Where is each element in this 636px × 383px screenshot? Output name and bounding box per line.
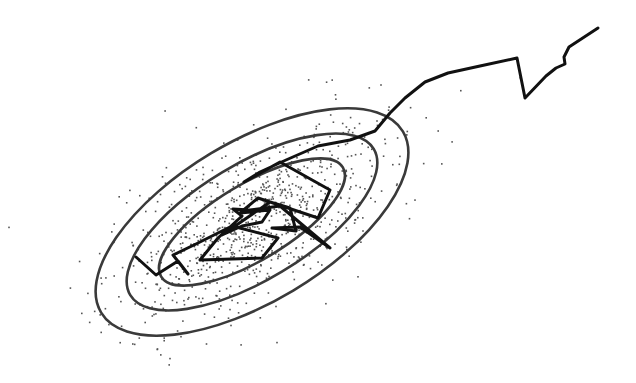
sampler-trajectory [136,28,598,275]
sample-points [8,77,521,366]
contour-outer [60,63,444,381]
contour-inner [142,135,363,309]
density-contours [60,63,444,381]
sampler-diagram [0,0,636,383]
